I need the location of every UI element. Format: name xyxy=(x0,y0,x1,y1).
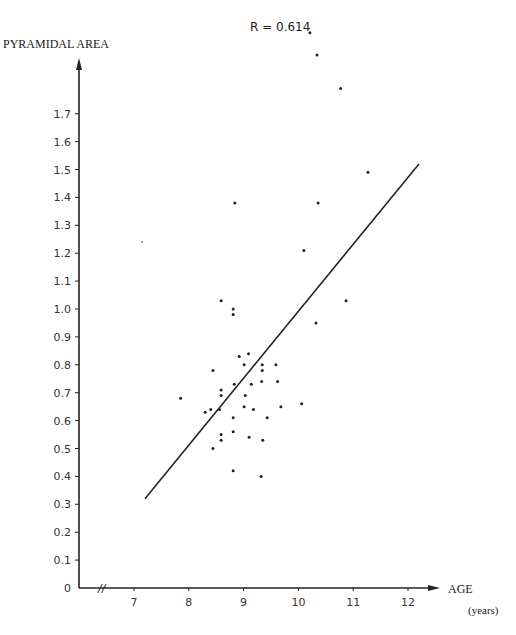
data-point xyxy=(261,363,264,366)
y-tick-label: 0.8 xyxy=(54,359,72,372)
data-point xyxy=(260,380,263,383)
data-points xyxy=(141,31,369,478)
y-tick-label: 0.2 xyxy=(54,526,72,539)
data-point xyxy=(220,394,223,397)
y-tick-label: 1.5 xyxy=(54,164,72,177)
y-tick-label: 0.4 xyxy=(54,470,72,483)
data-point xyxy=(366,171,369,174)
data-point xyxy=(250,383,253,386)
data-point xyxy=(218,408,221,411)
y-tick-label: 0.7 xyxy=(54,387,72,400)
y-tick-label: 0.9 xyxy=(54,331,72,344)
y-tick-label: 0.1 xyxy=(54,554,72,567)
x-tick-label: 8 xyxy=(185,596,192,609)
x-axis-units: (years) xyxy=(468,604,499,617)
data-point xyxy=(279,405,282,408)
data-point xyxy=(232,430,235,433)
x-tick-label: 10 xyxy=(291,596,305,609)
y-tick-label: 1.6 xyxy=(54,136,72,149)
data-point xyxy=(252,408,255,411)
data-point xyxy=(211,447,214,450)
data-point xyxy=(233,383,236,386)
data-point xyxy=(232,469,235,472)
data-point xyxy=(243,405,246,408)
data-point xyxy=(243,363,246,366)
data-point xyxy=(141,241,143,243)
y-tick-label: 1.0 xyxy=(54,303,72,316)
data-point xyxy=(232,308,235,311)
y-tick-label: 0.5 xyxy=(54,443,72,456)
correlation-annotation: R = 0.614 xyxy=(250,20,310,34)
data-point xyxy=(302,249,305,252)
regression-line xyxy=(145,164,419,499)
data-point xyxy=(247,352,250,355)
data-point xyxy=(220,439,223,442)
data-point xyxy=(314,321,317,324)
y-tick-label: 0.6 xyxy=(54,415,72,428)
axis-break-icon: // xyxy=(97,582,107,595)
y-tick-label: 1.2 xyxy=(54,247,72,260)
data-point xyxy=(300,402,303,405)
regression-line-path xyxy=(145,164,419,499)
data-point xyxy=(238,355,241,358)
data-point xyxy=(261,369,264,372)
y-tick-label: 1.3 xyxy=(54,219,72,232)
data-point xyxy=(209,408,212,411)
y-tick-label: 0.3 xyxy=(54,498,72,511)
x-tick-label: 9 xyxy=(240,596,247,609)
data-point xyxy=(211,369,214,372)
data-point xyxy=(248,436,251,439)
y-tick-label: 1.1 xyxy=(54,275,72,288)
data-point xyxy=(232,416,235,419)
data-point xyxy=(316,54,319,57)
data-point xyxy=(317,201,320,204)
x-tick-label: 12 xyxy=(401,596,415,609)
data-point xyxy=(232,313,235,316)
y-axis-arrow-icon xyxy=(76,58,82,70)
data-point xyxy=(244,394,247,397)
data-point xyxy=(220,299,223,302)
y-ticks: 00.10.20.30.40.50.60.70.80.91.01.11.21.3… xyxy=(54,108,80,595)
x-tick-label: 11 xyxy=(346,596,360,609)
y-tick-label: 0 xyxy=(64,582,71,595)
y-tick-label: 1.4 xyxy=(54,191,72,204)
data-point xyxy=(345,299,348,302)
axes: // xyxy=(76,58,440,595)
x-axis-arrow-icon xyxy=(428,585,440,591)
data-point xyxy=(204,411,207,414)
data-point xyxy=(260,475,263,478)
x-tick-label: 7 xyxy=(131,596,138,609)
x-axis-title: AGE xyxy=(448,582,473,596)
data-point xyxy=(179,397,182,400)
data-point xyxy=(276,380,279,383)
data-point xyxy=(261,439,264,442)
data-point xyxy=(220,433,223,436)
data-point xyxy=(266,416,269,419)
y-tick-label: 1.7 xyxy=(54,108,72,121)
scatter-chart: R = 0.614 PYRAMIDAL AREA AGE (years) // … xyxy=(0,0,516,635)
data-point xyxy=(233,201,236,204)
y-axis-title: PYRAMIDAL AREA xyxy=(3,37,109,51)
data-point xyxy=(274,363,277,366)
data-point xyxy=(308,31,311,34)
data-point xyxy=(339,87,342,90)
x-ticks: 789101112 xyxy=(131,588,416,609)
data-point xyxy=(220,388,223,391)
